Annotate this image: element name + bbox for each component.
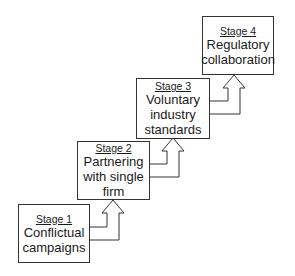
stage-1-line-2: campaigns (23, 240, 86, 255)
stage-3-label: Stage 3 (155, 80, 191, 92)
stage-1-box: Stage 1 Conflictual campaigns (18, 204, 90, 263)
stage-2-line-1: Partnering (84, 154, 144, 169)
stage-2-box: Stage 2 Partnering with single firm (77, 141, 150, 200)
arrow-stage2-to-stage3 (149, 138, 184, 177)
stage-3-line-3: standards (144, 122, 201, 137)
stage-2-line-2: with single (83, 169, 144, 184)
stage-4-box: Stage 4 Regulatory collaboration (202, 16, 274, 75)
stage-3-box: Stage 3 Voluntary industry standards (136, 78, 210, 139)
stage-4-line-1: Regulatory (207, 37, 270, 52)
stage-2-label: Stage 2 (95, 142, 131, 154)
stage-4-label: Stage 4 (220, 25, 256, 37)
stage-4-line-2: collaboration (201, 52, 275, 67)
stage-3-line-1: Voluntary (146, 92, 200, 107)
stage-3-line-2: industry (150, 107, 196, 122)
stage-1-label: Stage 1 (36, 213, 72, 225)
arrow-stage1-to-stage2 (89, 200, 124, 240)
arrow-stage3-to-stage4 (209, 75, 245, 114)
stage-1-line-1: Conflictual (24, 225, 85, 240)
stage-2-line-3: firm (103, 184, 125, 199)
